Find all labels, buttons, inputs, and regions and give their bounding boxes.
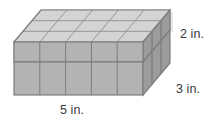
width-dimension-label: 5 in.: [60, 104, 84, 117]
prism-drawing: [0, 0, 215, 124]
cube-layer-front-faces: [14, 42, 143, 62]
lower-block-front-fill: [14, 62, 143, 95]
prism-figure: 2 in. 3 in. 5 in.: [0, 0, 215, 124]
cube-front-face-fill: [14, 42, 143, 62]
height-dimension-label: 2 in.: [180, 28, 204, 41]
depth-dimension-label: 3 in.: [176, 83, 200, 96]
